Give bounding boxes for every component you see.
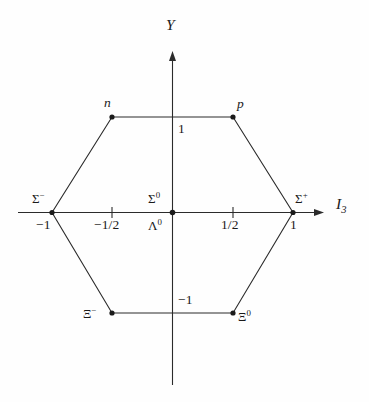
x-tick-label-plus-half: 1/2 (221, 218, 239, 232)
label-sigma-zero: Σ0 (148, 192, 160, 205)
label-xi-zero-charge: 0 (246, 308, 251, 318)
label-xi-minus-charge: − (91, 305, 96, 315)
point-xi-zero (230, 310, 235, 315)
point-proton (230, 114, 235, 119)
label-sigma-plus-charge: + (303, 190, 308, 200)
label-neutron: n (104, 96, 111, 110)
label-xi-zero: Ξ0 (238, 310, 251, 323)
label-sigma-plus-symbol: Σ (295, 191, 303, 206)
label-sigma-zero-charge: 0 (156, 190, 161, 200)
x-tick-label-1: 1 (290, 218, 297, 232)
label-sigma-minus-charge: − (40, 190, 45, 200)
label-sigma-minus: Σ− (32, 192, 45, 205)
x-axis-arrowhead (314, 209, 324, 216)
point-neutron (109, 114, 114, 119)
label-lambda-zero: Λ0 (148, 219, 162, 232)
point-sigma-minus (49, 210, 54, 215)
weight-diagram-figure: Y I3 1 −1 −1 −1/2 1/2 1 n p Σ− Σ0 Λ0 Σ+ … (0, 0, 369, 402)
point-sigma-zero-lambda-zero (170, 210, 176, 216)
label-sigma-minus-symbol: Σ (32, 191, 40, 206)
y-tick-label-minus-1: −1 (178, 293, 193, 307)
x-axis-label-subscript: 3 (341, 204, 346, 215)
y-axis-arrowhead (169, 51, 176, 61)
diagram-canvas (0, 0, 369, 402)
y-tick-label-1: 1 (178, 122, 185, 136)
label-sigma-zero-symbol: Σ (148, 191, 156, 206)
x-axis-label: I3 (336, 196, 347, 212)
label-proton: p (237, 97, 244, 111)
label-lambda-zero-symbol: Λ (148, 218, 158, 233)
x-tick-label-minus-1: −1 (36, 218, 51, 232)
label-lambda-zero-charge: 0 (158, 217, 163, 227)
label-xi-minus: Ξ− (83, 307, 97, 320)
point-sigma-plus (290, 210, 295, 215)
x-tick-label-minus-half: −1/2 (94, 218, 119, 232)
point-xi-minus (109, 310, 114, 315)
label-sigma-plus: Σ+ (295, 192, 308, 205)
y-axis-label: Y (166, 17, 175, 33)
